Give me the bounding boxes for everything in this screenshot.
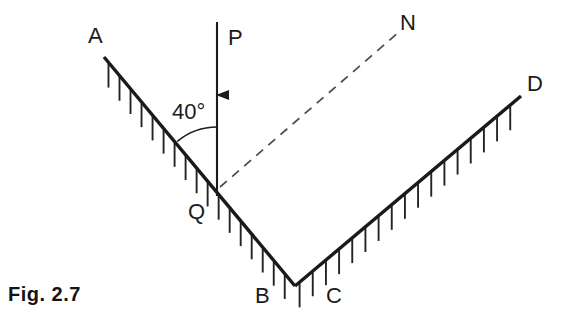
label-point-d: D [527,73,543,95]
label-point-q: Q [188,201,205,223]
label-point-a: A [88,25,103,47]
hatching-surface-cd [300,106,511,307]
surface-line-cd [295,96,521,286]
label-point-b: B [255,285,270,307]
figure-canvas: A P N D Q B C 40° Fig. 2.7 [0,0,566,325]
label-force-p: P [228,27,243,49]
angle-arc-40 [177,127,217,141]
surface-line-ab [104,57,295,286]
label-point-c: C [326,285,342,307]
normal-dashed-line [220,32,399,187]
diagram-svg [0,0,566,325]
figure-caption: Fig. 2.7 [8,283,81,306]
label-normal-n: N [400,12,416,34]
label-angle-value: 40° [172,101,205,123]
